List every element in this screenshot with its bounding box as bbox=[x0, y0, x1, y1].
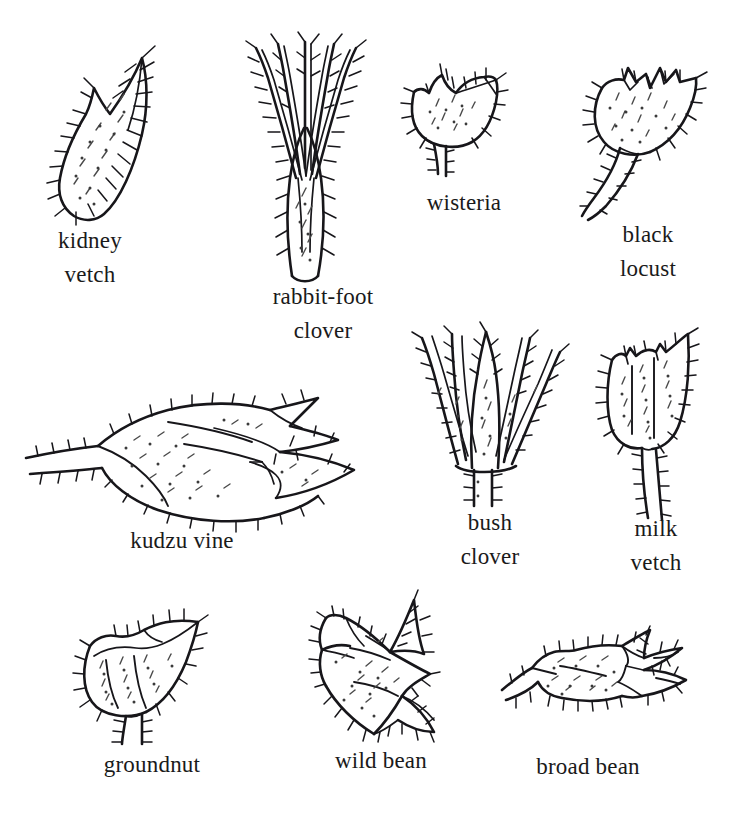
caption-black-locust: black locust bbox=[574, 218, 722, 286]
caption-milk-vetch: milk vetch bbox=[590, 512, 722, 580]
kidney-vetch-illustration bbox=[24, 38, 184, 238]
specimen-broad-bean: broad bean bbox=[498, 622, 688, 802]
specimen-kidney-vetch: kidney vetch bbox=[24, 38, 184, 288]
specimen-milk-vetch: milk vetch bbox=[592, 322, 722, 572]
bush-clover-illustration bbox=[416, 318, 566, 508]
specimen-wisteria: wisteria bbox=[396, 58, 532, 228]
caption-kidney-vetch: kidney vetch bbox=[24, 224, 156, 292]
specimen-wild-bean: wild bean bbox=[306, 592, 456, 800]
specimen-rabbit-foot-clover: rabbit-foot clover bbox=[232, 28, 412, 358]
rabbit-foot-clover-illustration bbox=[232, 28, 382, 293]
caption-wisteria: wisteria bbox=[394, 186, 534, 220]
caption-kudzu-vine: kudzu vine bbox=[62, 524, 302, 558]
black-locust-illustration bbox=[576, 48, 726, 223]
caption-bush-clover: bush clover bbox=[414, 506, 566, 574]
caption-groundnut: groundnut bbox=[60, 748, 244, 782]
caption-broad-bean: broad bean bbox=[488, 750, 688, 784]
wild-bean-illustration bbox=[306, 592, 456, 747]
groundnut-illustration bbox=[72, 600, 222, 745]
specimen-bush-clover: bush clover bbox=[416, 318, 566, 568]
milk-vetch-illustration bbox=[592, 322, 718, 522]
specimen-black-locust: black locust bbox=[576, 48, 726, 278]
specimen-groundnut: groundnut bbox=[72, 600, 232, 800]
wisteria-illustration bbox=[396, 58, 522, 178]
caption-wild-bean: wild bean bbox=[296, 744, 466, 778]
caption-rabbit-foot-clover: rabbit-foot clover bbox=[230, 280, 416, 348]
kudzu-vine-illustration bbox=[18, 392, 364, 532]
broad-bean-illustration bbox=[498, 622, 688, 732]
botanical-plate: kidney vetch bbox=[0, 0, 738, 832]
specimen-kudzu-vine: kudzu vine bbox=[18, 392, 368, 562]
